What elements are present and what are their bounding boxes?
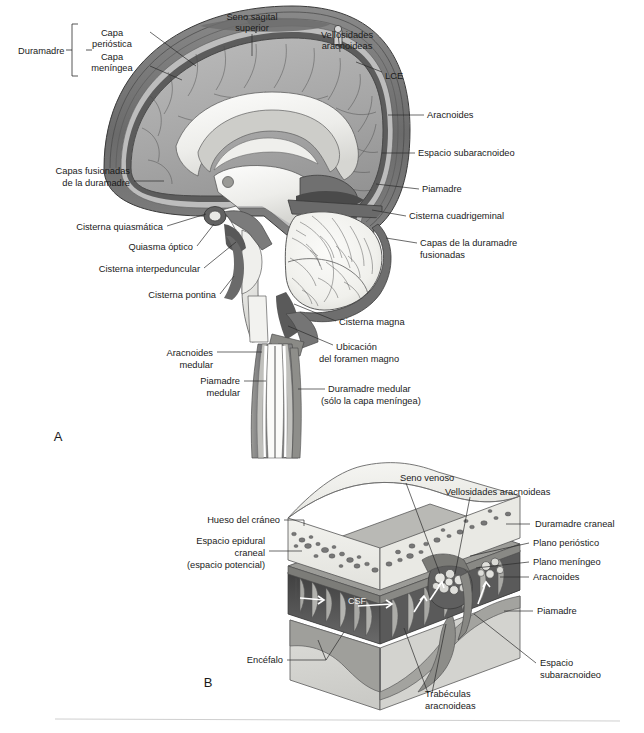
label-aracnoides: Aracnoides [427,110,474,120]
label-trabeculas-line1: Trabéculas [425,689,471,699]
label-capa-periostica-line1: Capa [101,28,124,38]
label-plano-meningeo: Plano meníngeo [533,557,601,567]
label-seno-sagital-line2: superior [235,23,269,33]
interthalamic-adhesion [223,177,234,188]
label-capa-meningea-line1: Capa [101,52,124,62]
label-duramadre-medular-line2: (sólo la capa meníngea) [321,396,421,406]
panel-label-a: A [54,429,63,444]
footer-divider [55,719,620,721]
label-capas-fusionadas-line1: Capas fusionadas [56,166,131,176]
label-capa-meningea-line2: meníngea [91,63,133,73]
panel-label-b: B [204,675,213,690]
figure-svg: Duramadre Capa perióstica Capa meníngea … [0,0,644,733]
label-cisterna-interpeduncular: Cisterna interpeduncular [99,264,200,274]
chiasmatic-cistern-group [204,207,226,226]
label-espacio-epidural-line1: Espacio epidural [196,536,265,546]
label-piamadre-b: Piamadre [537,606,577,616]
label-espacio-subaracnoideo-b-line2: subaracnoideo [540,670,601,680]
label-espacio-subaracnoideo-b-line1: Espacio [540,658,573,668]
label-piamadre-medular-line1: Piamadre [200,376,240,386]
label-capas-duramadre-fusionadas-line1: Capas de la duramadre [420,238,517,248]
label-quiasma-optico: Quiasma óptico [128,242,193,252]
label-vellosidades-line2: aracnoideas [322,41,373,51]
label-lce: LCE [385,71,403,81]
label-ubicacion-foramen-line2: del foramen magno [319,354,399,364]
label-vellosidades-aracnoideas-b: Vellosidades aracnoideas [445,487,551,497]
anatomy-figure: Duramadre Capa perióstica Capa meníngea … [0,0,644,733]
label-capa-periostica-line2: perióstica [92,39,133,49]
label-ubicacion-foramen-line1: Ubicación [336,342,377,352]
label-duramadre: Duramadre [18,46,65,56]
label-seno-venoso: Seno venoso [400,473,454,483]
label-seno-sagital-line1: Seno sagital [226,12,277,22]
label-hueso-craneo: Hueso del cráneo [207,515,280,525]
label-cisterna-pontina: Cisterna pontina [148,290,217,300]
medulla [248,296,268,342]
label-piamadre-medular-line2: medular [206,388,240,398]
label-vellosidades-line1: Vellosidades [321,30,374,40]
label-aracnoides-medular-line1: Aracnoides [166,348,213,358]
label-plano-periostico: Plano perióstico [533,538,599,548]
label-csf: CSF [348,596,367,606]
label-aracnoides-b: Aracnoides [533,572,580,582]
label-espacio-epidural-line3: (espacio potencial) [187,560,265,570]
label-aracnoides-medular-line2: medular [179,360,213,370]
label-piamadre: Piamadre [422,184,462,194]
label-encefalo: Encéfalo [247,655,283,665]
label-cisterna-magna: Cisterna magna [339,317,405,327]
optic-chiasm [209,211,221,221]
label-cisterna-quiasmatica: Cisterna quiasmática [76,222,164,232]
label-duramadre-craneal: Duramadre craneal [535,519,615,529]
label-capas-duramadre-fusionadas-line2: fusionadas [420,250,465,260]
panel-b-illustration: Seno venoso Vellosidades aracnoideas Hue… [187,463,615,711]
label-espacio-subaracnoideo: Espacio subaracnoideo [418,148,515,158]
label-duramadre-medular-line1: Duramadre medular [328,384,411,394]
label-capas-fusionadas-line2: de la duramadre [62,178,130,188]
label-trabeculas-line2: aracnoideas [425,701,476,711]
label-cisterna-cuadrigeminal: Cisterna cuadrigeminal [409,211,504,221]
panel-a-illustration: Duramadre Capa perióstica Capa meníngea … [18,6,517,458]
label-espacio-epidural-line2: craneal [235,548,266,558]
